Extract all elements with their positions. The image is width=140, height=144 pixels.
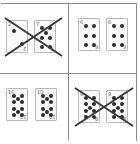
pip <box>112 34 116 38</box>
pip <box>112 24 116 28</box>
pip <box>41 94 45 98</box>
card[interactable]: 6 6 <box>78 18 100 51</box>
pip <box>84 109 88 113</box>
pip <box>84 115 88 119</box>
pip <box>12 100 16 104</box>
pip <box>88 106 92 110</box>
pip <box>112 115 116 119</box>
cell-top-right[interactable]: 6 6 6 6 <box>69 4 137 73</box>
card[interactable]: 10 10 <box>6 88 28 121</box>
pip <box>41 100 45 104</box>
card[interactable]: 6 6 <box>106 18 128 51</box>
pip <box>20 94 24 98</box>
pip <box>92 34 96 38</box>
pip <box>12 107 16 111</box>
card-rank: 6 <box>80 20 83 25</box>
card-rank: 9 <box>80 92 83 97</box>
pip <box>49 100 53 104</box>
pip <box>44 31 48 35</box>
card-rank: 2 <box>8 22 11 27</box>
pip <box>120 34 124 38</box>
pip <box>116 106 120 110</box>
pip <box>92 102 96 106</box>
card-rank: 6 <box>108 20 111 25</box>
pip <box>112 102 116 106</box>
pip <box>120 24 124 28</box>
card[interactable]: 9 9 <box>106 90 128 123</box>
pip <box>12 94 16 98</box>
pip <box>84 43 88 47</box>
pip <box>120 102 124 106</box>
cell-bottom-left[interactable]: 10 10 10 10 <box>0 74 68 143</box>
pip <box>16 97 20 101</box>
pip <box>112 96 116 100</box>
pip <box>12 29 16 33</box>
pip <box>120 96 124 100</box>
pip <box>120 109 124 113</box>
pip <box>84 34 88 38</box>
pip <box>20 107 24 111</box>
pip <box>49 107 53 111</box>
pip <box>112 109 116 113</box>
pip <box>92 24 96 28</box>
pip <box>48 36 52 40</box>
pip <box>49 94 53 98</box>
card-rank: 2 <box>23 46 26 51</box>
pip <box>112 43 116 47</box>
pip <box>40 45 44 49</box>
card[interactable]: 7 7 <box>34 20 56 53</box>
card-rank: 9 <box>108 92 111 97</box>
cell-bottom-right[interactable]: 9 9 9 9 <box>69 74 137 143</box>
pip <box>40 36 44 40</box>
pip <box>92 109 96 113</box>
pip <box>12 113 16 117</box>
card[interactable]: 2 2 <box>6 20 28 53</box>
pip <box>84 102 88 106</box>
pip <box>48 26 52 30</box>
card[interactable]: 9 9 <box>78 90 100 123</box>
pip <box>45 97 49 101</box>
pip <box>41 113 45 117</box>
pip <box>20 100 24 104</box>
pip <box>92 96 96 100</box>
pip <box>84 24 88 28</box>
pip <box>84 96 88 100</box>
cell-top-left[interactable]: 2 2 7 7 <box>0 4 68 73</box>
card[interactable]: 10 10 <box>35 88 57 121</box>
card-rank: 7 <box>36 22 39 27</box>
pip <box>40 26 44 30</box>
pip <box>41 107 45 111</box>
